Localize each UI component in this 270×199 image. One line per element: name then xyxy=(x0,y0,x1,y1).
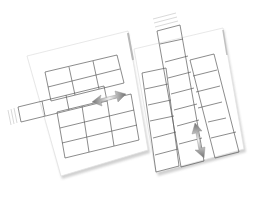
right-page xyxy=(134,28,246,176)
motion-lines-icon xyxy=(153,13,178,27)
left-page xyxy=(27,31,150,179)
motion-lines-icon xyxy=(8,108,17,125)
